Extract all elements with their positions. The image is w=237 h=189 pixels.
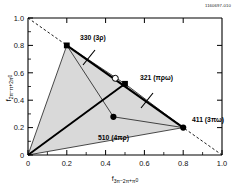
dalitz-scatter-plot: 0 0.2 0.4 0.6 0.8 1.0 0 0.2 0.4 0.6 0.8 … [0, 0, 237, 189]
y-tick-label: 0 [20, 151, 24, 160]
x-tick-label: 0.6 [139, 159, 149, 168]
data-point-411[interactable] [180, 125, 186, 131]
annotation-510: 510 (4πρ) [98, 134, 129, 142]
y-tick-label: 0.4 [14, 96, 24, 105]
data-point-measurement[interactable] [112, 75, 118, 81]
data-point-510[interactable] [110, 114, 116, 120]
x-tick-label: 1.0 [217, 159, 227, 168]
x-tick-label: 0.2 [62, 159, 72, 168]
annotation-330: 330 (3ρ) [80, 34, 106, 42]
y-tick-label: 1.0 [14, 14, 24, 23]
y-tick-label: 0.6 [14, 69, 24, 78]
x-tick-label: 0 [26, 159, 30, 168]
svg-text:f3π−2π+π0: f3π−2π+π0 [112, 175, 139, 184]
x-tick-labels: 0 0.2 0.4 0.6 0.8 1.0 [26, 159, 227, 168]
y-tick-label: 0.8 [14, 41, 24, 50]
svg-text:f2π−π+2π0: f2π−π+2π0 [5, 75, 14, 102]
x-tick-label: 0.4 [100, 159, 110, 168]
figure-container: 1160697-010 [0, 0, 237, 189]
data-point-330[interactable] [64, 43, 70, 49]
y-tick-labels: 0 0.2 0.4 0.6 0.8 1.0 [14, 14, 24, 160]
x-tick-label: 0.8 [178, 159, 188, 168]
annotation-321: 321 (πρω) [140, 74, 173, 82]
x-axis-title: f3π−2π+π0 [112, 175, 139, 184]
y-tick-label: 0.2 [14, 123, 24, 132]
data-point-321[interactable] [122, 81, 128, 87]
annotation-411: 411 (3πω) [192, 116, 224, 124]
y-axis-title: f2π−π+2π0 [5, 75, 14, 102]
